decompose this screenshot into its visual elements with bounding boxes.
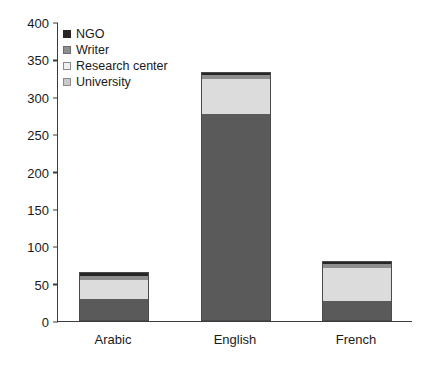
legend-label: Research center (76, 59, 168, 73)
university-swatch-icon (63, 78, 71, 86)
y-tick-0: 0 (42, 315, 58, 330)
research-center-swatch-icon (63, 62, 71, 70)
y-tick-300: 300 (27, 90, 58, 105)
bar-segment-research-center[interactable] (79, 280, 149, 299)
x-label-english: English (214, 332, 257, 347)
y-tick-200: 200 (27, 165, 58, 180)
bar-french[interactable] (322, 261, 392, 321)
y-tick-350: 350 (27, 53, 58, 68)
stacked-bar-chart: 400 350 300 250 200 150 100 50 0 (0, 0, 434, 365)
legend-item-writer[interactable]: Writer (63, 43, 168, 57)
legend-label: NGO (76, 27, 104, 41)
legend-label: University (76, 75, 131, 89)
y-tick-250: 250 (27, 128, 58, 143)
x-label-french: French (336, 332, 376, 347)
legend-label: Writer (76, 43, 109, 57)
bar-segment-university[interactable] (201, 114, 271, 321)
y-tick-100: 100 (27, 240, 58, 255)
y-tick-150: 150 (27, 202, 58, 217)
y-tick-400: 400 (27, 16, 58, 31)
ngo-swatch-icon (63, 30, 71, 38)
bar-segment-research-center[interactable] (201, 79, 271, 114)
bar-segment-research-center[interactable] (322, 268, 392, 301)
x-label-arabic: Arabic (95, 332, 132, 347)
bar-english[interactable] (201, 72, 271, 321)
writer-swatch-icon (63, 46, 71, 54)
legend: NGO Writer Research center University (63, 27, 168, 89)
bar-segment-university[interactable] (322, 301, 392, 321)
bar-arabic[interactable] (79, 272, 149, 321)
y-tick-50: 50 (35, 277, 58, 292)
bar-segment-university[interactable] (79, 299, 149, 321)
legend-item-ngo[interactable]: NGO (63, 27, 168, 41)
legend-item-university[interactable]: University (63, 75, 168, 89)
legend-item-research-center[interactable]: Research center (63, 59, 168, 73)
y-tick-mark (53, 321, 58, 322)
